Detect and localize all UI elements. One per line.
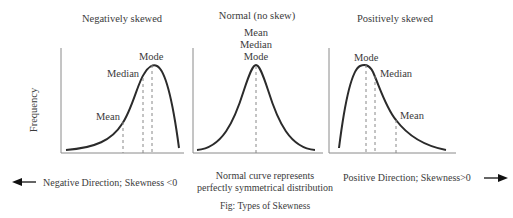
label-mode-negative: Mode [139,51,164,63]
figure-caption: Fig: Types of Skewness [190,200,340,212]
positive-direction-arrow [484,174,508,182]
label-mode-normal: Mode [226,51,286,63]
label-mode-positive: Mode [354,52,379,64]
panel-negative-axes [61,48,184,153]
label-median-negative: Median [107,68,139,80]
panel-title-normal: Normal (no skew) [195,10,319,22]
label-mean-negative: Mean [96,111,120,123]
label-median-normal: Median [226,39,286,51]
label-mean-positive: Mean [400,110,424,122]
panel-title-positive: Positively skewed [336,13,454,25]
negative-direction-text: Negative Direction; Skewness <0 [43,177,177,189]
panel-title-negative: Negatively skewed [60,13,184,25]
label-median-positive: Median [380,68,412,80]
normal-note-line1: Normal curve represents [190,170,340,182]
panel-normal-axes [193,48,323,153]
negative-direction-arrow [12,178,36,186]
normal-curve [197,65,315,150]
positive-direction-text: Positive Direction; Skewness>0 [343,172,471,184]
y-axis-label: Frequency [28,88,40,132]
normal-note-line2: perfectly symmetrical distribution [190,182,340,194]
label-mean-normal: Mean [226,27,286,39]
panel-positive-axes [329,48,456,153]
